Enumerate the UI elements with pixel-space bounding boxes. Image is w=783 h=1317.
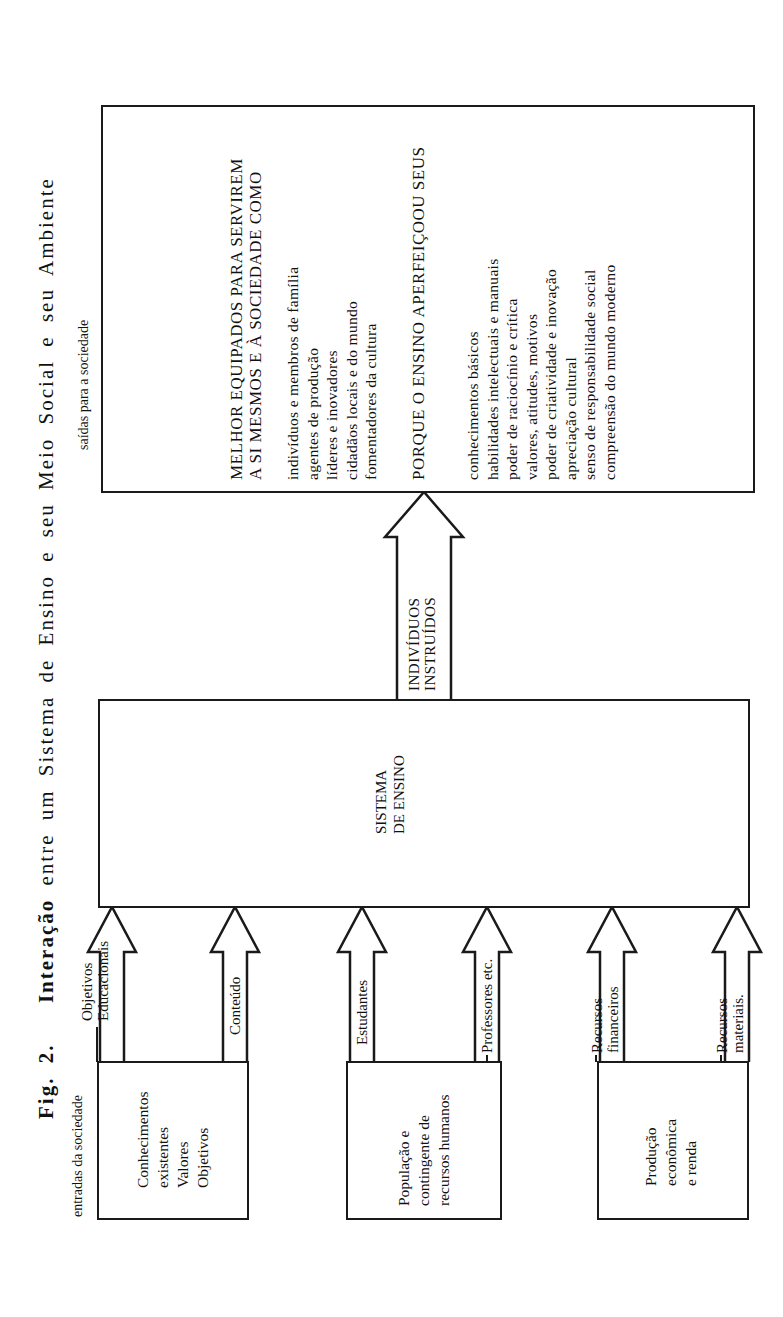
quality-item: valores, atitudes, motivos <box>522 258 542 480</box>
label-conteudo: Conteúdo <box>227 977 243 1035</box>
role-item: agentes de produção <box>303 267 323 480</box>
quality-item: senso de responsabilidade social <box>580 258 600 480</box>
role-item: cidadãos locais e do mundo <box>342 267 362 480</box>
label-recursos-financeiros: Recursos financeiros <box>589 986 621 1053</box>
label-recursos-materiais: Recursos materiais. <box>714 994 746 1053</box>
output-heading-1: MELHOR EQUIPADOS PARA SERVIREM A SI MESM… <box>227 158 265 480</box>
label-individuos-instruidos: INDIVÍDUOS INSTRUÍDOS <box>406 597 438 691</box>
role-item: indivíduos e membros de família <box>283 267 303 480</box>
output-heading-2: PORQUE O ENSINO APERFEIÇOOU SEUS <box>409 147 428 480</box>
input-box-populacao: População e contingente de recursos huma… <box>346 1061 502 1220</box>
system-box-line2: DE ENSINO <box>390 755 408 834</box>
quality-item: poder de raciocínio e crítica <box>502 258 522 480</box>
system-box: SISTEMA DE ENSINO <box>98 699 750 908</box>
quality-item: conhecimentos básicos <box>463 258 483 480</box>
diagram-canvas: Fig. 2. Interação entre um Sistema de En… <box>0 0 783 1317</box>
system-box-line1: SISTEMA <box>372 755 390 834</box>
quality-item: apreciação cultural <box>561 258 581 480</box>
quality-item: poder de criatividade e inovação <box>541 258 561 480</box>
input-box-producao: Produção econômica e renda <box>597 1061 749 1220</box>
label-estudantes: Estudantes <box>354 980 370 1045</box>
label-objetivos-educacionais: Objetivos Educacionais <box>79 941 111 1021</box>
output-roles-list: indivíduos e membros de família agentes … <box>283 267 381 480</box>
quality-item: compreensão do mundo moderno <box>600 258 620 480</box>
role-item: fomentadores da cultura <box>361 267 381 480</box>
input-box-conhecimentos: Conhecimentos existentes Valores Objetiv… <box>97 1061 249 1220</box>
output-qualities-list: conhecimentos básicos habilidades intele… <box>463 258 619 480</box>
output-box: MELHOR EQUIPADOS PARA SERVIREM A SI MESM… <box>101 105 755 493</box>
quality-item: habilidades intelectuais e manuais <box>483 258 503 480</box>
role-item: líderes e inovadores <box>322 267 342 480</box>
label-professores: Professores etc. <box>479 959 495 1053</box>
